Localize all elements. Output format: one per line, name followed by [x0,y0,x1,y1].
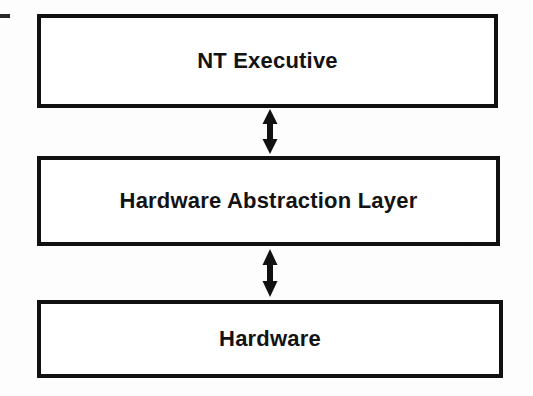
double-arrow-vertical-icon-exec-hal [259,109,281,154]
double-arrow-vertical-icon [259,249,281,297]
double-arrow-vertical-icon [259,109,281,154]
double-arrow-vertical-icon-hal-hardware [259,249,281,297]
layer-label-hardware: Hardware [219,328,321,350]
edge-scan-mark [0,14,10,18]
layer-box-hardware-abstraction-layer: Hardware Abstraction Layer [37,156,500,246]
layer-box-nt-executive: NT Executive [37,14,498,108]
layer-label-nt-executive: NT Executive [197,50,338,72]
diagram-canvas: NT Executive Hardware Abstraction Layer … [0,0,533,396]
layer-label-hardware-abstraction-layer: Hardware Abstraction Layer [120,190,418,212]
layer-box-hardware: Hardware [37,300,503,378]
